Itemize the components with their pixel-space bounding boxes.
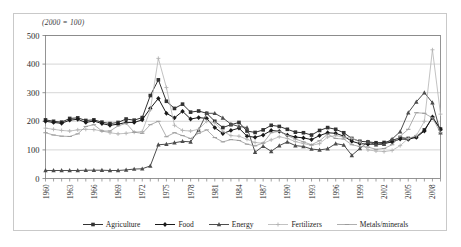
series-line — [46, 80, 441, 143]
data-point-marker — [221, 126, 225, 130]
y-tick-label: 300 — [27, 88, 40, 98]
legend-swatch-diamond-icon — [154, 220, 176, 229]
x-tick-label: 1975 — [163, 184, 171, 199]
legend-swatch-dash-icon — [336, 220, 358, 229]
data-point-marker — [325, 146, 329, 150]
x-tick-label: 1963 — [67, 184, 75, 199]
data-point-marker — [196, 115, 200, 120]
chart-legend: AgricultureFoodEnergyFertilizersMetals/m… — [45, 216, 445, 232]
x-tick-label: 1984 — [236, 184, 244, 199]
x-tick-label: 1978 — [188, 184, 196, 199]
data-point-marker — [318, 129, 322, 133]
legend-entry-food[interactable]: Food — [154, 220, 193, 229]
y-tick-label: 400 — [27, 59, 40, 69]
legend-entry-energy[interactable]: Energy — [208, 220, 254, 229]
data-point-marker — [229, 128, 233, 133]
data-point-marker — [181, 102, 185, 106]
y-tick-label: 500 — [27, 31, 40, 41]
data-point-marker — [148, 94, 152, 98]
data-point-marker — [398, 129, 402, 133]
x-tick-label: 1966 — [91, 184, 99, 199]
data-point-marker — [302, 131, 306, 135]
legend-swatch-square-icon — [82, 220, 104, 229]
data-point-marker — [334, 128, 338, 132]
legend-label: Metals/minerals — [360, 220, 408, 229]
data-point-marker — [309, 137, 313, 142]
legend-label: Agriculture — [106, 220, 141, 229]
data-point-marker — [261, 133, 265, 138]
legend-entry-agriculture[interactable]: Agriculture — [82, 220, 141, 229]
plot-area-wrapper: 0100200300400500 19601963196619691972197… — [0, 0, 461, 247]
data-point-marker — [317, 133, 321, 138]
x-tick-label: 1972 — [139, 184, 147, 199]
data-point-marker — [277, 125, 281, 129]
data-point-marker — [197, 109, 201, 113]
series-fertilizers — [44, 48, 443, 154]
data-point-marker — [148, 164, 152, 168]
data-point-marker — [294, 130, 298, 134]
x-axis-ticks: 1960196319661969197219751978198119841987… — [43, 179, 441, 199]
y-tick-label: 100 — [27, 145, 40, 155]
x-tick-label: 1999 — [357, 184, 365, 199]
figure-root: (2000 = 100) 0100200300400500 1960196319… — [0, 0, 461, 247]
data-point-marker — [286, 128, 290, 132]
x-tick-label: 1990 — [284, 184, 292, 199]
data-point-marker — [237, 121, 241, 125]
chart-canvas: 0100200300400500 19601963196619691972197… — [0, 0, 461, 247]
legend-swatch-triangle-icon — [208, 220, 230, 229]
x-tick-label: 2005 — [405, 184, 413, 199]
legend-label: Energy — [232, 220, 254, 229]
x-tick-label: 1993 — [309, 184, 317, 199]
legend-label: Fertilizers — [291, 220, 321, 229]
data-point-marker — [165, 99, 169, 103]
data-series-group — [43, 48, 442, 172]
data-point-marker — [310, 133, 314, 137]
data-point-marker — [334, 141, 338, 145]
x-tick-label: 2002 — [381, 184, 389, 199]
data-point-marker — [261, 128, 265, 132]
y-tick-label: 200 — [27, 116, 40, 126]
data-point-marker — [301, 135, 305, 140]
data-point-marker — [269, 124, 273, 128]
series-agriculture — [44, 78, 443, 145]
data-point-marker — [173, 107, 177, 111]
data-point-marker — [326, 126, 330, 130]
y-tick-label: 0 — [35, 174, 39, 184]
x-tick-label: 2008 — [429, 184, 437, 199]
plot-frame-border — [46, 36, 441, 179]
legend-entry-metals-minerals[interactable]: Metals/minerals — [336, 220, 408, 229]
legend-swatch-cross-icon — [267, 220, 289, 229]
data-point-marker — [253, 135, 257, 140]
data-point-marker — [157, 78, 161, 82]
x-tick-label: 1996 — [333, 184, 341, 199]
y-axis-ticks: 0100200300400500 — [27, 31, 46, 184]
data-point-marker — [253, 131, 257, 135]
x-tick-label: 1960 — [43, 184, 51, 199]
series-line — [46, 50, 441, 152]
data-point-marker — [189, 110, 193, 114]
x-tick-label: 1981 — [212, 184, 220, 199]
x-tick-label: 1969 — [115, 184, 123, 199]
legend-entry-fertilizers[interactable]: Fertilizers — [267, 220, 321, 229]
data-point-marker — [164, 111, 168, 116]
x-tick-label: 1987 — [260, 184, 268, 199]
legend-label: Food — [178, 220, 193, 229]
